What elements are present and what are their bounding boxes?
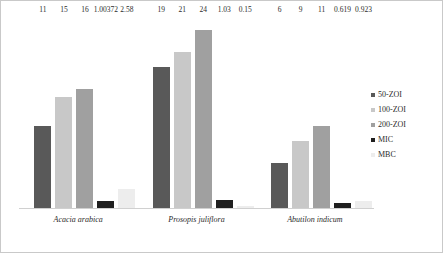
bar[interactable]: 6	[271, 163, 288, 208]
bar-slot: 0.923	[355, 15, 372, 208]
bar-slot: 0.15	[237, 15, 254, 208]
bar-slot: 1.03	[216, 15, 233, 208]
bar-value-label: 1.03	[218, 6, 231, 14]
bar-value-label: 0.619	[334, 6, 351, 14]
bar[interactable]: 9	[292, 141, 309, 208]
bar-slot: 15	[55, 15, 72, 208]
bar-slot: 2.58	[118, 15, 135, 208]
legend-item[interactable]: 100-ZOI	[371, 102, 433, 117]
plot-area: 1115161.003722.581921241.030.1569110.619…	[19, 15, 374, 209]
bar-value-label: 21	[178, 6, 186, 14]
bar-value-label: 24	[199, 6, 207, 14]
chart-figure: 1115161.003722.581921241.030.1569110.619…	[0, 0, 443, 253]
bar-slot: 11	[313, 15, 330, 208]
bar[interactable]: 24	[195, 30, 212, 208]
bar[interactable]: 2.58	[118, 189, 135, 208]
legend-swatch-icon	[371, 153, 375, 157]
category-axis-labels: Acacia arabicaProsopis julifloraAbutilon…	[19, 215, 374, 224]
bar-value-label: 11	[318, 6, 325, 14]
bar[interactable]: 1.00372	[97, 201, 114, 208]
bar-value-label: 2.58	[120, 6, 133, 14]
bar-value-label: 15	[60, 6, 68, 14]
legend-item-label: 100-ZOI	[378, 105, 406, 114]
legend-swatch-icon	[371, 138, 375, 142]
category-label: Abutilon indicum	[256, 215, 374, 224]
legend-item[interactable]: 50-ZOI	[371, 87, 433, 102]
bar[interactable]: 11	[34, 126, 51, 208]
bar-group: 69110.6190.923	[256, 15, 374, 208]
bar-group-bars: 69110.6190.923	[271, 15, 359, 208]
bar[interactable]: 19	[153, 67, 170, 208]
bar-slot: 0.619	[334, 15, 351, 208]
bar[interactable]: 21	[174, 52, 191, 208]
bar-slot: 1.00372	[97, 15, 114, 208]
bar[interactable]: 15	[55, 97, 72, 208]
bar-slot: 9	[292, 15, 309, 208]
bar-group-bars: 1921241.030.15	[153, 15, 241, 208]
bar-group-bars: 1115161.003722.58	[34, 15, 122, 208]
bar-value-label: 16	[81, 6, 89, 14]
legend-item-label: 200-ZOI	[378, 120, 406, 129]
bar-value-label: 9	[299, 6, 303, 14]
legend-swatch-icon	[371, 93, 375, 97]
bar[interactable]: 16	[76, 89, 93, 208]
axis-baseline	[19, 208, 374, 209]
bar-slot: 24	[195, 15, 212, 208]
bar-group: 1115161.003722.58	[19, 15, 137, 208]
legend-item-label: MBC	[378, 150, 396, 159]
bar[interactable]: 11	[313, 126, 330, 208]
bar-slot: 6	[271, 15, 288, 208]
chart-legend: 50-ZOI100-ZOI200-ZOIMICMBC	[371, 87, 433, 162]
bar-groups: 1115161.003722.581921241.030.1569110.619…	[19, 15, 374, 208]
legend-item[interactable]: 200-ZOI	[371, 117, 433, 132]
bar-value-label: 1.00372	[94, 6, 118, 14]
bar-group: 1921241.030.15	[137, 15, 255, 208]
bar-value-label: 0.15	[239, 6, 252, 14]
legend-swatch-icon	[371, 123, 375, 127]
legend-item-label: 50-ZOI	[378, 90, 402, 99]
bar[interactable]: 1.03	[216, 200, 233, 208]
bar-slot: 11	[34, 15, 51, 208]
bar-value-label: 6	[278, 6, 282, 14]
bar-slot: 19	[153, 15, 170, 208]
category-label: Acacia arabica	[19, 215, 137, 224]
category-label: Prosopis juliflora	[137, 215, 255, 224]
bar-value-label: 0.923	[355, 6, 372, 14]
legend-item[interactable]: MIC	[371, 132, 433, 147]
bar-value-label: 19	[157, 6, 165, 14]
legend-item-label: MIC	[378, 135, 393, 144]
legend-item[interactable]: MBC	[371, 147, 433, 162]
legend-swatch-icon	[371, 108, 375, 112]
bar-slot: 21	[174, 15, 191, 208]
bar[interactable]: 0.923	[355, 201, 372, 208]
bar-value-label: 11	[39, 6, 46, 14]
bar-slot: 16	[76, 15, 93, 208]
